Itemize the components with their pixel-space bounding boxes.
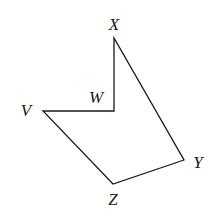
vertex-label-v: V [21,101,34,120]
vertex-label-y: Y [193,153,204,172]
diagram-canvas: X W V Z Y [0,0,211,219]
vertex-label-z: Z [108,190,118,209]
vertex-label-x: X [108,15,120,34]
vertex-label-w: W [89,88,105,107]
pentagon-diagram: X W V Z Y [0,0,211,219]
pentagon-vwxyz [43,38,184,184]
